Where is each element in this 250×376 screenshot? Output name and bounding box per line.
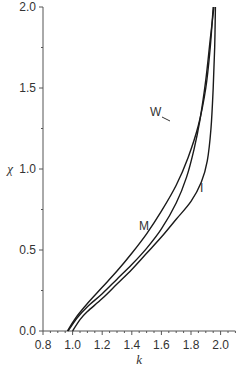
x-tick-label: 1.8: [183, 338, 200, 352]
line-chart: 0.00.51.01.52.00.81.01.21.41.61.82.0kχ W…: [0, 0, 250, 376]
x-tick-label: 1.6: [153, 338, 170, 352]
x-tick-label: 0.8: [35, 338, 52, 352]
curve-m: [67, 7, 213, 331]
y-axis-label: χ: [5, 161, 13, 176]
y-tick-label: 1.5: [19, 81, 36, 95]
curve-label-w: W: [150, 105, 162, 119]
y-tick-label: 2.0: [19, 0, 36, 14]
w-leader-line: [162, 117, 170, 121]
y-tick-label: 1.0: [19, 162, 36, 176]
x-tick-label: 1.0: [64, 338, 81, 352]
curves: [67, 7, 215, 331]
y-tick-label: 0.5: [19, 243, 36, 257]
x-tick-label: 1.2: [94, 338, 111, 352]
y-tick-label: 0.0: [19, 324, 36, 338]
curve-w: [68, 7, 214, 331]
x-tick-label: 2.0: [212, 338, 229, 352]
curve-label-m: M: [139, 219, 149, 233]
curve-i: [73, 7, 216, 331]
x-axis-label: k: [136, 352, 142, 367]
curve-label-i: I: [200, 181, 203, 195]
x-tick-label: 1.4: [123, 338, 140, 352]
